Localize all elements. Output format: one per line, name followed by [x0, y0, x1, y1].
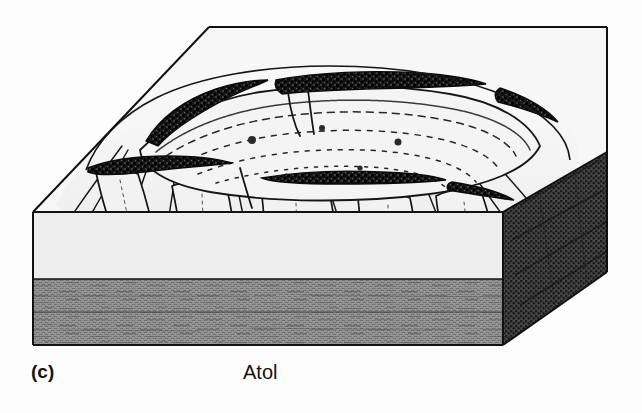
sea-floor-sediment	[33, 279, 503, 345]
figure-index-label: (c)	[31, 361, 54, 382]
figure-container: (c) Atol	[0, 0, 642, 413]
figure-title-label: Atol	[243, 361, 277, 383]
water-column-face	[33, 212, 503, 279]
atoll-block-diagram: (c) Atol	[0, 0, 642, 413]
